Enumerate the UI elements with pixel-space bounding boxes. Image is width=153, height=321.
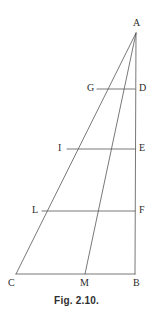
figure-caption: Fig. 2.10.: [0, 295, 153, 306]
vertex-label-F: F: [139, 205, 145, 215]
vertex-label-G: G: [87, 83, 94, 93]
vertex-label-I: I: [58, 143, 61, 153]
vertex-label-E: E: [139, 143, 145, 153]
vertex-label-A: A: [133, 18, 140, 28]
side-AB: [135, 33, 136, 274]
vertex-label-L: L: [32, 205, 38, 215]
geometry-figure: A B C M G D I E L F Fig. 2.10.: [0, 0, 153, 321]
vertex-label-D: D: [139, 83, 146, 93]
vertex-label-C: C: [8, 278, 15, 288]
geometry-diagram: [0, 0, 153, 321]
cevian-AM: [85, 33, 136, 274]
vertex-label-B: B: [133, 278, 140, 288]
side-AC: [16, 33, 136, 274]
segment-layer: [16, 33, 136, 274]
vertex-label-M: M: [80, 278, 89, 288]
